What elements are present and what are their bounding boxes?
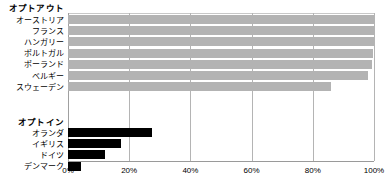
category-label-optin-1: イギリス xyxy=(0,140,64,149)
x-tick-100pct: 100% xyxy=(354,166,385,175)
category-label-optout-5: ベルギー xyxy=(0,72,64,81)
bar-optin-2 xyxy=(68,150,105,159)
bar-optin-0 xyxy=(68,128,152,137)
x-tick-20pct: 20% xyxy=(109,166,149,175)
x-tick-40pct: 40% xyxy=(170,166,210,175)
category-label-optout-6: スウェーデン xyxy=(0,83,64,92)
group-heading-optin: オプトイン xyxy=(0,117,64,127)
category-label-optout-1: フランス xyxy=(0,27,64,36)
x-tick-60pct: 60% xyxy=(232,166,272,175)
bar-optout-2 xyxy=(68,37,374,46)
category-label-optin-0: オランダ xyxy=(0,129,64,138)
bar-optout-0 xyxy=(68,15,374,24)
category-label-optin-2: ドイツ xyxy=(0,151,64,160)
category-label-optout-0: オーストリア xyxy=(0,16,64,25)
bar-optout-6 xyxy=(68,82,331,91)
x-tick-0pct: 0% xyxy=(48,166,88,175)
bar-optout-5 xyxy=(68,71,368,80)
plot-axis-line xyxy=(68,161,374,162)
bar-optout-4 xyxy=(68,60,372,69)
gridline-100pct xyxy=(374,13,375,161)
category-label-optout-2: ハンガリー xyxy=(0,38,64,47)
group-heading-optout: オプトアウト xyxy=(0,3,64,13)
category-label-optout-3: ポルトガル xyxy=(0,49,64,58)
bar-optout-1 xyxy=(68,26,374,35)
x-tick-80pct: 80% xyxy=(293,166,333,175)
category-label-optout-4: ポーランド xyxy=(0,60,64,69)
bar-optin-1 xyxy=(68,139,121,148)
bar-chart: オプトアウトオーストリアフランスハンガリーポルトガルポーランドベルギースウェーデ… xyxy=(0,0,385,194)
bar-optout-3 xyxy=(68,49,373,58)
